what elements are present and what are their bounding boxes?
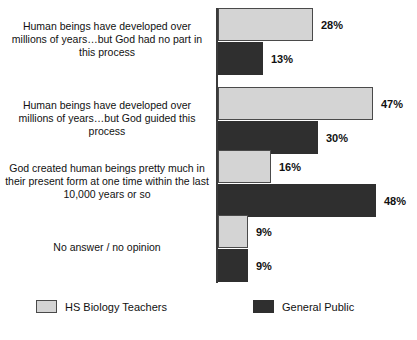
bar-value-public: 30% [326,132,348,144]
bar-group: No answer / no opinion 9% 9% [0,215,417,283]
bar-value-teachers: 16% [279,161,301,173]
chart-legend: HS Biology Teachers General Public [0,296,417,326]
category-label: No answer / no opinion [4,241,210,254]
legend-label: HS Biology Teachers [65,301,167,313]
category-label: God created human beings pretty much in … [4,162,210,201]
bar-value-teachers: 9% [256,226,272,238]
bar-teachers[interactable] [218,87,373,120]
category-label: Human beings have developed over million… [4,20,210,59]
bar-teachers[interactable] [218,150,271,183]
bar-public[interactable] [218,42,263,75]
bar-value-public: 13% [271,53,293,65]
bar-value-teachers: 47% [381,98,403,110]
bar-group: Human beings have developed over million… [0,8,417,76]
dark-gray-swatch-icon [253,300,274,313]
bar-value-public: 48% [384,195,406,207]
legend-item-general-public[interactable]: General Public [253,300,354,313]
legend-label: General Public [282,301,354,313]
category-label: Human beings have developed over million… [4,99,210,138]
grouped-bar-chart: Human beings have developed over million… [0,0,417,340]
light-gray-swatch-icon [36,300,57,313]
bar-group: Human beings have developed over million… [0,87,417,155]
bar-teachers[interactable] [218,8,313,41]
legend-item-hs-biology-teachers[interactable]: HS Biology Teachers [36,300,167,313]
bar-public[interactable] [218,184,376,217]
plot-area: Human beings have developed over million… [0,0,417,292]
bar-teachers[interactable] [218,215,248,248]
bar-value-teachers: 28% [321,19,343,31]
bar-value-public: 9% [256,260,272,272]
bar-group: God created human beings pretty much in … [0,150,417,218]
bar-public[interactable] [218,249,248,282]
